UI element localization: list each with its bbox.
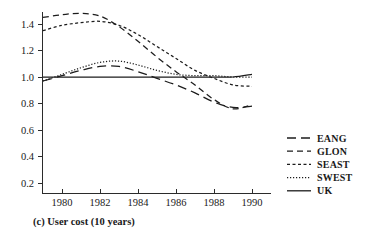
chart-legend: EANGGLONSEASTSWESTUK xyxy=(287,133,353,197)
x-axis-ticks xyxy=(62,189,252,194)
x-tick-label: 1988 xyxy=(204,197,225,208)
chart-figure: 0.20.40.60.81.01.21.4 198019821984198619… xyxy=(0,0,372,241)
user-cost-line-chart: 0.20.40.60.81.01.21.4 198019821984198619… xyxy=(0,0,372,241)
y-axis-tick-labels: 0.20.40.60.81.01.21.4 xyxy=(21,19,35,189)
x-tick-label: 1990 xyxy=(242,197,263,208)
y-tick-label: 1.4 xyxy=(21,19,35,30)
y-tick-label: 0.6 xyxy=(21,125,34,136)
y-tick-label: 0.4 xyxy=(21,151,35,162)
y-tick-label: 0.8 xyxy=(21,98,34,109)
y-tick-label: 0.2 xyxy=(21,178,34,189)
x-axis-tick-labels: 198019821984198619881990 xyxy=(52,197,263,208)
series-line-glon xyxy=(43,13,252,109)
x-tick-label: 1984 xyxy=(128,197,150,208)
x-tick-label: 1980 xyxy=(52,197,73,208)
legend-label-glon: GLON xyxy=(317,146,348,157)
data-series-group xyxy=(43,13,252,109)
series-line-swest xyxy=(43,61,252,81)
figure-caption: (c) User cost (10 years) xyxy=(33,216,135,228)
legend-label-eang: EANG xyxy=(317,133,347,144)
legend-label-uk: UK xyxy=(317,185,332,196)
x-tick-label: 1982 xyxy=(90,197,111,208)
y-tick-label: 1.0 xyxy=(21,72,34,83)
x-tick-label: 1986 xyxy=(166,197,187,208)
legend-label-seast: SEAST xyxy=(317,159,350,170)
series-line-eang xyxy=(43,66,252,108)
series-line-uk xyxy=(43,74,252,77)
legend-label-swest: SWEST xyxy=(317,172,353,183)
y-tick-label: 1.2 xyxy=(21,45,34,56)
y-axis-ticks xyxy=(38,24,43,183)
